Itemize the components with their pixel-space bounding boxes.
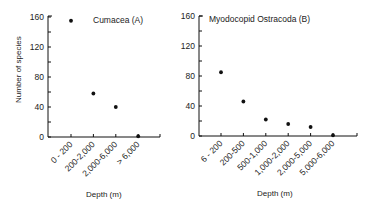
y-tick-label: 120 xyxy=(181,41,195,51)
data-points xyxy=(69,19,140,138)
y-tick-label: 80 xyxy=(186,71,196,81)
figure: 04080120160 0 - 200200-2,0002,000-6,000>… xyxy=(0,0,375,208)
y-tick-label: 120 xyxy=(30,42,44,52)
x-axis-label: Depth (m) xyxy=(86,190,122,199)
x-axis-label: Depth (m) xyxy=(257,189,293,198)
x-tick-label: > 6,000 xyxy=(114,139,141,166)
chart-myodocopid-ostracoda: 04080120160 6 - 200200-500500-1,0001,000… xyxy=(181,11,357,198)
y-tick-label: 160 xyxy=(181,11,195,21)
chart-title: Cumacea (A) xyxy=(93,15,143,25)
data-point xyxy=(309,125,313,129)
chart-title: Myodocopid Ostracoda (B) xyxy=(209,14,310,24)
data-point xyxy=(92,92,96,96)
y-axis-label: Number of species xyxy=(14,36,23,103)
x-ticks: 6 - 200200-500500-1,0001,000-2,0002,000-… xyxy=(199,133,337,177)
data-point xyxy=(331,133,335,137)
data-points xyxy=(219,70,335,137)
y-tick-label: 160 xyxy=(30,12,44,22)
data-point xyxy=(264,118,268,122)
data-point xyxy=(69,19,73,23)
data-point xyxy=(219,70,223,74)
data-point xyxy=(136,134,140,138)
y-tick-label: 0 xyxy=(39,132,44,142)
data-point xyxy=(286,122,290,126)
y-tick-label: 80 xyxy=(35,72,45,82)
data-point xyxy=(114,105,118,109)
data-point xyxy=(242,100,246,104)
y-tick-label: 40 xyxy=(35,102,45,112)
y-tick-label: 40 xyxy=(186,101,196,111)
chart-cumacea: 04080120160 0 - 200200-2,0002,000-6,000>… xyxy=(14,12,160,199)
y-tick-label: 0 xyxy=(190,131,195,141)
x-ticks: 0 - 200200-2,0002,000-6,000> 6,000 xyxy=(49,134,142,178)
